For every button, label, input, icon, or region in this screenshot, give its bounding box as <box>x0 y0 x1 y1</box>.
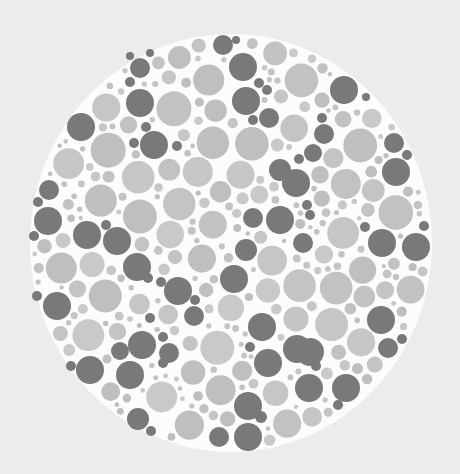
light-dot <box>326 108 331 113</box>
light-dot <box>158 305 178 325</box>
light-dot <box>117 408 124 415</box>
dark-dot <box>33 197 43 207</box>
dark-dot <box>362 93 370 101</box>
light-dot <box>183 336 198 351</box>
light-dot <box>322 208 331 217</box>
light-dot <box>320 272 353 305</box>
light-dot <box>80 146 85 151</box>
dark-dot <box>101 220 111 230</box>
light-dot <box>181 78 191 88</box>
light-dot <box>331 169 361 199</box>
light-dot <box>254 231 267 244</box>
dark-dot <box>367 306 395 334</box>
light-dot <box>99 123 107 131</box>
light-dot <box>354 286 376 308</box>
light-dot <box>155 327 160 332</box>
light-dot <box>204 100 226 122</box>
light-dot <box>129 285 134 290</box>
light-dot <box>218 295 244 321</box>
light-dot <box>307 301 317 311</box>
dark-dot <box>127 408 149 430</box>
light-dot <box>116 210 121 215</box>
light-dot <box>358 246 365 253</box>
light-dot <box>199 198 209 208</box>
light-dot <box>286 144 292 150</box>
light-dot <box>63 344 75 356</box>
light-dot <box>314 191 330 207</box>
dark-dot <box>296 338 324 366</box>
light-dot <box>154 183 163 192</box>
light-dot <box>283 269 316 302</box>
dark-dot <box>125 77 135 87</box>
dark-dot <box>43 292 71 320</box>
light-dot <box>221 57 226 62</box>
light-dot <box>117 275 124 282</box>
light-dot <box>80 252 105 277</box>
light-dot <box>263 42 287 66</box>
light-dot <box>119 193 127 201</box>
light-dot <box>409 263 417 271</box>
light-dot <box>391 301 396 306</box>
dark-dot <box>397 334 407 344</box>
light-dot <box>205 304 214 313</box>
light-dot <box>228 118 238 128</box>
light-dot <box>272 196 280 204</box>
light-dot <box>239 342 244 347</box>
light-dot <box>361 203 375 217</box>
dark-dot <box>143 273 153 283</box>
light-dot <box>317 63 328 74</box>
light-dot <box>331 345 346 360</box>
dark-dot <box>402 150 412 160</box>
light-dot <box>232 361 252 381</box>
light-dot <box>338 251 344 257</box>
light-dot <box>174 377 179 382</box>
light-dot <box>250 186 268 204</box>
light-dot <box>56 233 71 248</box>
light-dot <box>168 433 176 441</box>
light-dot <box>157 91 192 126</box>
light-dot <box>122 161 155 194</box>
light-dot <box>321 368 333 380</box>
light-dot <box>397 276 425 304</box>
dark-dot <box>248 115 258 125</box>
light-dot <box>338 200 347 209</box>
light-dot <box>328 72 333 77</box>
light-dot <box>237 192 249 204</box>
light-dot <box>220 411 235 426</box>
dark-dot <box>368 229 396 257</box>
light-dot <box>274 77 280 83</box>
light-dot <box>273 410 301 438</box>
light-dot <box>289 49 298 58</box>
light-dot <box>183 157 213 187</box>
light-dot <box>418 267 428 277</box>
dark-dot <box>111 342 129 360</box>
light-dot <box>152 81 158 87</box>
light-dot <box>367 357 383 373</box>
light-dot <box>257 246 287 276</box>
light-dot <box>256 176 264 184</box>
light-dot <box>67 215 75 223</box>
light-dot <box>315 308 348 341</box>
light-dot <box>345 303 357 315</box>
light-dot <box>382 264 386 268</box>
light-dot <box>210 181 231 202</box>
light-dot <box>249 354 254 359</box>
dark-dot <box>146 49 154 57</box>
light-dot <box>150 117 155 122</box>
light-dot <box>224 253 234 263</box>
light-dot <box>269 182 279 192</box>
light-dot <box>314 267 321 274</box>
light-dot <box>85 185 117 217</box>
light-dot <box>340 360 351 371</box>
light-dot <box>123 394 132 403</box>
light-dot <box>36 280 41 285</box>
light-dot <box>347 328 375 356</box>
light-dot <box>285 64 319 98</box>
dark-dot <box>103 227 131 255</box>
dark-dot <box>158 358 168 368</box>
dark-dot <box>130 58 150 78</box>
light-dot <box>118 88 124 94</box>
light-dot <box>308 225 313 230</box>
light-dot <box>314 93 329 108</box>
light-dot <box>103 171 115 183</box>
